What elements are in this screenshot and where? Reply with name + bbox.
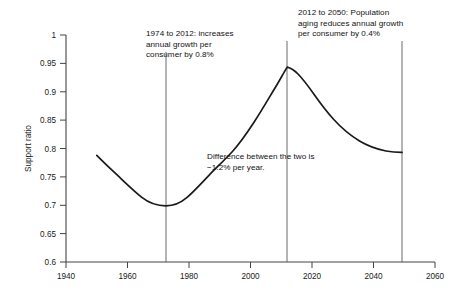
y-axis-title: Support ratio: [24, 125, 33, 172]
annotation-1974-2012: 1974 to 2012: increases annual growth pe…: [146, 29, 276, 61]
annotation-2012-2050: 2012 to 2050: Population aging reduces a…: [298, 8, 450, 40]
x-tick-label-2040: 2040: [364, 272, 383, 281]
y-tick-label-0.8: 0.8: [45, 145, 57, 154]
y-tick-label-0.65: 0.65: [40, 230, 56, 239]
y-tick-label-0.95: 0.95: [40, 59, 56, 68]
annotation-difference: Difference between the two is −1.2% per …: [207, 152, 357, 173]
x-tick-label-1940: 1940: [57, 272, 76, 281]
y-tick-label-0.9: 0.9: [45, 88, 57, 97]
x-tick-label-2020: 2020: [303, 272, 322, 281]
y-tick-label-0.75: 0.75: [40, 173, 56, 182]
y-tick-label-0.85: 0.85: [40, 116, 56, 125]
x-axis-ticks: [66, 262, 435, 268]
y-tick-label-1: 1: [51, 31, 56, 40]
x-tick-label-1980: 1980: [180, 272, 199, 281]
x-tick-label-2000: 2000: [241, 272, 260, 281]
x-tick-label-1960: 1960: [118, 272, 137, 281]
x-tick-label-2060: 2060: [426, 272, 445, 281]
figure-container: 1 0.95 0.9 0.85 0.8 0.75 0.7 0.65 0.6 19…: [0, 0, 461, 300]
y-tick-label-0.7: 0.7: [45, 201, 57, 210]
y-tick-label-0.6: 0.6: [45, 258, 57, 267]
y-axis-ticks: [60, 35, 66, 262]
support-ratio-line: [97, 67, 402, 206]
